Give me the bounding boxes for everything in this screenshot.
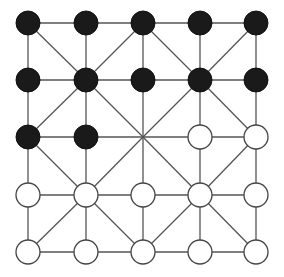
white-piece-r3-c4[interactable]: [244, 183, 268, 207]
white-piece-r2-c4[interactable]: [244, 125, 268, 149]
black-piece-r0-c0[interactable]: [16, 11, 40, 35]
black-piece-r0-c3[interactable]: [188, 11, 212, 35]
black-piece-r1-c4[interactable]: [244, 68, 268, 92]
black-piece-r1-c3[interactable]: [188, 68, 212, 92]
black-piece-r0-c4[interactable]: [244, 11, 268, 35]
alquerque-board: [0, 0, 284, 277]
white-piece-r4-c0[interactable]: [16, 240, 40, 264]
white-piece-r4-c2[interactable]: [131, 240, 155, 264]
empty-point-r2-c2[interactable]: [131, 125, 155, 149]
black-piece-r1-c1[interactable]: [74, 68, 98, 92]
white-piece-r4-c3[interactable]: [188, 240, 212, 264]
white-piece-r4-c1[interactable]: [74, 240, 98, 264]
black-piece-r0-c1[interactable]: [74, 11, 98, 35]
white-piece-r3-c1[interactable]: [74, 183, 98, 207]
white-piece-r3-c3[interactable]: [188, 183, 212, 207]
white-piece-r3-c2[interactable]: [131, 183, 155, 207]
white-piece-r4-c4[interactable]: [244, 240, 268, 264]
black-piece-r2-c1[interactable]: [74, 125, 98, 149]
white-piece-r3-c0[interactable]: [16, 183, 40, 207]
black-piece-r1-c2[interactable]: [131, 68, 155, 92]
black-piece-r1-c0[interactable]: [16, 68, 40, 92]
white-piece-r2-c3[interactable]: [188, 125, 212, 149]
black-piece-r0-c2[interactable]: [131, 11, 155, 35]
black-piece-r2-c0[interactable]: [16, 125, 40, 149]
